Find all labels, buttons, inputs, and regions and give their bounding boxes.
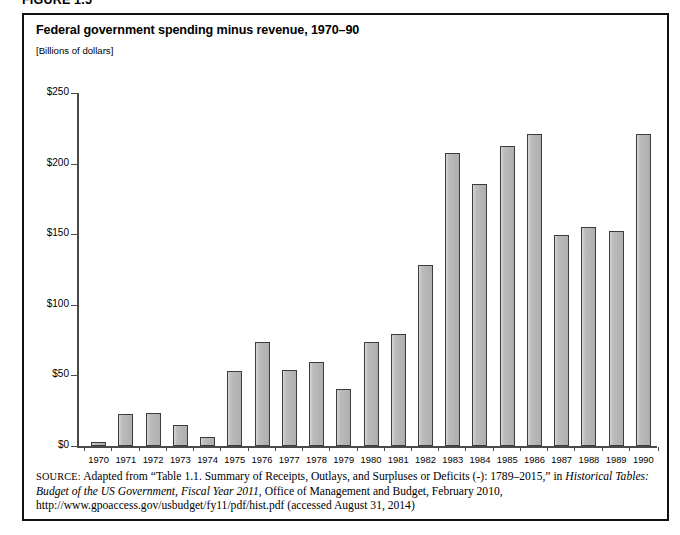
y-axis-tick: [71, 93, 77, 94]
bar: [227, 371, 242, 446]
bar: [364, 342, 379, 446]
bar: [118, 414, 133, 446]
x-axis-tick: [438, 447, 439, 451]
bar: [445, 153, 460, 446]
bar: [146, 413, 161, 446]
bar: [391, 334, 406, 446]
bar: [418, 265, 433, 446]
x-axis-tick: [329, 447, 330, 451]
bar: [527, 134, 542, 446]
y-axis-tick-label: $250: [25, 86, 69, 97]
x-axis-tick: [658, 447, 659, 451]
bar: [554, 235, 569, 446]
x-axis-tick: [465, 447, 466, 451]
y-axis-tick: [71, 305, 77, 306]
bar: [636, 134, 651, 446]
x-axis-tick: [193, 447, 194, 451]
y-axis-tick-label: $100: [25, 298, 69, 309]
chart-title: Federal government spending minus revenu…: [36, 23, 359, 37]
figure-frame: Federal government spending minus revenu…: [22, 13, 669, 521]
x-axis-tick: [602, 447, 603, 451]
bar: [309, 362, 324, 446]
chart-units-label: [Billions of dollars]: [36, 45, 113, 56]
bar: [609, 231, 624, 446]
x-axis-tick: [384, 447, 385, 451]
y-axis-tick-label: $50: [25, 368, 69, 379]
x-axis-tick-label: 1990: [625, 454, 661, 465]
bar: [581, 227, 596, 446]
y-axis-line: [77, 93, 79, 447]
figure-number-label: FIGURE 1.5: [22, 0, 92, 7]
x-axis-tick: [629, 447, 630, 451]
y-axis-tick: [71, 446, 77, 447]
bar: [282, 370, 297, 446]
x-axis-tick: [139, 447, 140, 451]
y-axis-tick-label: $200: [25, 157, 69, 168]
x-axis-tick: [166, 447, 167, 451]
x-axis-tick: [493, 447, 494, 451]
x-axis-tick: [302, 447, 303, 451]
bar: [472, 184, 487, 446]
x-axis-tick: [357, 447, 358, 451]
y-axis-tick: [71, 375, 77, 376]
y-axis-tick: [71, 234, 77, 235]
x-axis-tick: [411, 447, 412, 451]
x-axis-tick: [84, 447, 85, 451]
bar: [91, 442, 106, 446]
x-axis-tick: [520, 447, 521, 451]
x-axis-tick: [111, 447, 112, 451]
x-axis-tick: [574, 447, 575, 451]
y-axis-tick-label: $150: [25, 227, 69, 238]
x-axis-tick: [248, 447, 249, 451]
bar: [173, 425, 188, 446]
bar-chart-plot-area: $0$50$100$150$200$250 197019711972197319…: [77, 93, 657, 461]
x-axis-tick: [220, 447, 221, 451]
bar: [336, 389, 351, 446]
bar: [255, 342, 270, 446]
source-note: SOURCE: Adapted from “Table 1.1. Summary…: [36, 470, 658, 514]
x-axis-line: [77, 446, 657, 448]
y-axis-tick-label: $0: [25, 439, 69, 450]
source-note-part1: Adapted from “Table 1.1. Summary of Rece…: [81, 470, 565, 483]
source-note-prefix: SOURCE:: [36, 471, 81, 482]
y-axis-tick: [71, 164, 77, 165]
x-axis-tick: [275, 447, 276, 451]
bar: [200, 437, 215, 446]
x-axis-tick: [547, 447, 548, 451]
bar: [500, 146, 515, 446]
